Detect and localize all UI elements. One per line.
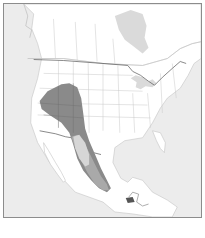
range-map: [3, 3, 202, 218]
map-caption: [4, 226, 200, 236]
map-canvas: [4, 4, 201, 217]
